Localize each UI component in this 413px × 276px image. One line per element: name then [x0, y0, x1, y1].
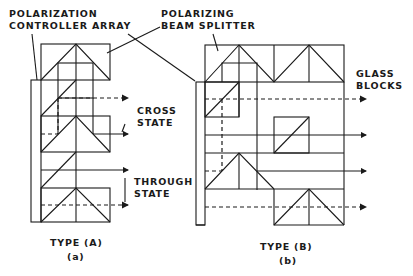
optical-switch-diagram: POLARIZATION CONTROLLER ARRAY POLARIZING…	[0, 0, 413, 276]
label-type-a: TYPE (A)	[50, 237, 103, 248]
leader-pca	[32, 34, 37, 80]
label-pca-1: POLARIZATION	[9, 8, 97, 19]
type-b-diagram	[196, 45, 366, 225]
label-glass-1: GLASS	[356, 68, 394, 79]
type-a-diagram	[31, 44, 128, 222]
label-pbs-1: POLARIZING	[161, 8, 234, 19]
label-cross-2: STATE	[137, 117, 173, 128]
label-type-b-sub: (b)	[279, 255, 297, 266]
label-type-b: TYPE (B)	[260, 241, 312, 252]
leader-pbs-b	[213, 34, 218, 51]
label-pbs-2: BEAM SPLITTER	[161, 20, 256, 31]
label-through-2: STATE	[134, 188, 170, 199]
leader-cross	[122, 124, 125, 132]
label-pca-2: CONTROLLER ARRAY	[9, 20, 131, 31]
label-type-a-sub: (a)	[67, 251, 85, 262]
label-glass-2: BLOCKS	[356, 80, 403, 91]
leader-pca-b	[128, 34, 195, 81]
label-cross-1: CROSS	[137, 105, 177, 116]
label-through-1: THROUGH	[134, 176, 193, 187]
